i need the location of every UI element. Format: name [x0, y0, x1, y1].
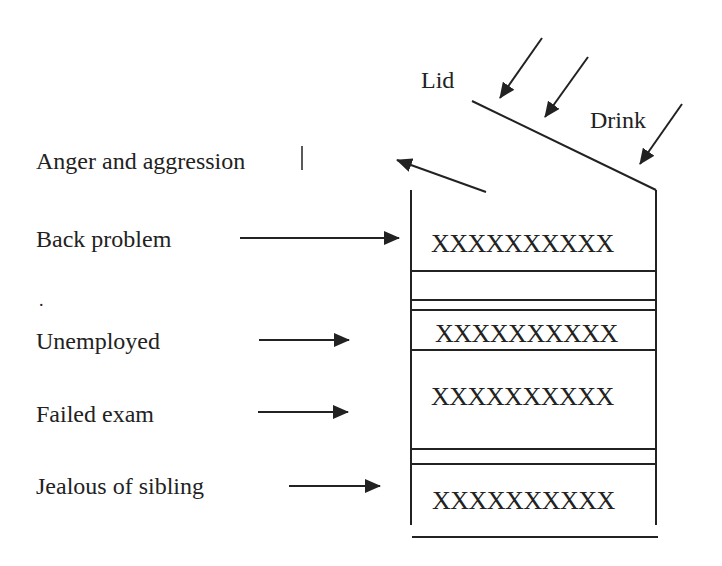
layer-3-content: XXXXXXXXXX	[431, 384, 614, 410]
layer-1-content: XXXXXXXXXX	[431, 231, 614, 257]
input-label-back-problem: Back problem	[36, 227, 171, 251]
input-label-jealous-of-sibling: Jealous of sibling	[36, 474, 204, 498]
input-label-unemployed: Unemployed	[36, 329, 160, 353]
layer-dividers	[411, 271, 656, 464]
drink-label: Drink	[590, 108, 646, 132]
layer-4-content: XXXXXXXXXX	[432, 488, 615, 514]
lid-label: Lid	[421, 68, 454, 92]
drink-arrow-3	[640, 104, 682, 164]
drink-arrow-2	[545, 57, 588, 117]
input-label-failed-exam: Failed exam	[36, 402, 154, 426]
output-arrow	[397, 160, 486, 192]
drink-arrow-1	[500, 38, 542, 98]
input-arrows	[240, 238, 399, 486]
bottle-diagram: Lid Drink Anger and aggression Back prob…	[0, 0, 722, 566]
output-label-anger: Anger and aggression	[36, 149, 245, 173]
stray-dot: .	[39, 291, 44, 309]
layer-2-content: XXXXXXXXXX	[435, 321, 618, 347]
drink-arrows	[500, 38, 682, 164]
